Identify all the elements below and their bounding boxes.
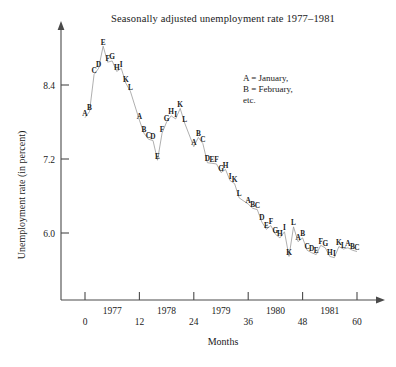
data-point-label: D bbox=[96, 60, 101, 69]
x-tick-label: 12 bbox=[135, 317, 145, 327]
unemployment-line-chart: Seasonally adjusted unemployment rate 19… bbox=[0, 0, 396, 367]
data-point-label: E bbox=[155, 152, 160, 161]
chart-title: Seasonally adjusted unemployment rate 19… bbox=[111, 13, 335, 24]
data-point-label: G bbox=[109, 52, 115, 61]
data-point-label: I bbox=[283, 223, 286, 232]
chart-container: Seasonally adjusted unemployment rate 19… bbox=[0, 0, 396, 367]
data-point-label: E bbox=[101, 38, 106, 47]
x-axis-year-label: 1981 bbox=[320, 306, 339, 316]
data-point-label: E bbox=[314, 246, 319, 255]
data-point-label: H bbox=[223, 161, 229, 170]
data-point-label: C bbox=[354, 243, 359, 252]
data-point-label: I bbox=[333, 249, 336, 258]
data-point-label: K bbox=[177, 100, 183, 109]
data-point-label: F bbox=[160, 125, 165, 134]
x-tick-label: 48 bbox=[298, 317, 308, 327]
data-point-label: L bbox=[128, 83, 133, 92]
x-axis-year-label: 1979 bbox=[212, 306, 231, 316]
y-tick-label: 7.2 bbox=[43, 155, 55, 165]
data-point-label: B bbox=[87, 103, 92, 112]
x-axis-label: Months bbox=[208, 336, 239, 347]
y-tick-label: 8.4 bbox=[43, 81, 55, 91]
x-tick-label: 0 bbox=[83, 317, 88, 327]
x-axis-year-label: 1978 bbox=[157, 306, 176, 316]
data-point-label: L bbox=[182, 115, 187, 124]
data-point-label: C bbox=[200, 135, 205, 144]
x-tick-label: 36 bbox=[243, 317, 253, 327]
data-point-label: L bbox=[291, 218, 296, 227]
y-axis-label: Unemployment rate (in percent) bbox=[16, 131, 28, 260]
year-label-group: 19771978197919801981 bbox=[103, 306, 340, 316]
x-axis-arrowhead bbox=[376, 297, 385, 304]
data-point-label: L bbox=[237, 189, 242, 198]
legend-line-etc: etc. bbox=[243, 95, 256, 105]
axes-group bbox=[58, 21, 385, 303]
data-point-label: C bbox=[255, 201, 260, 210]
legend-line-february: B = February, bbox=[243, 84, 293, 94]
x-axis-year-label: 1980 bbox=[266, 306, 285, 316]
data-point-label: K bbox=[232, 175, 238, 184]
x-tick-label: 60 bbox=[352, 317, 362, 327]
y-tick-group: 6.07.28.4 bbox=[43, 81, 69, 239]
data-point-label: B bbox=[300, 229, 305, 238]
data-point-label: I bbox=[120, 60, 123, 69]
legend-line-january: A = January, bbox=[243, 73, 288, 83]
x-axis-year-label: 1977 bbox=[103, 306, 122, 316]
data-point-label: I bbox=[174, 110, 177, 119]
data-point-label: D bbox=[150, 132, 155, 141]
y-axis-arrowhead bbox=[58, 21, 65, 30]
data-point-label: K bbox=[286, 248, 292, 257]
data-point-label: A bbox=[191, 138, 197, 147]
y-tick-label: 6.0 bbox=[43, 229, 55, 239]
x-tick-label: 24 bbox=[189, 317, 199, 327]
data-point-label-group: ABCDEFGHIKLABCDEFGHIKLABCDEFGHIKLABCDEFG… bbox=[82, 38, 359, 259]
data-point-label: A bbox=[137, 112, 143, 121]
legend: A = January, B = February, etc. bbox=[243, 73, 293, 105]
